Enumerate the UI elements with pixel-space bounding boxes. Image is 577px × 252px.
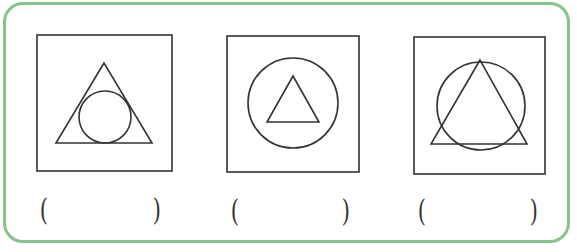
panel-2-answer-close: ) [342,196,350,226]
panel-2-figure [227,36,359,172]
panel-1-figure [37,35,172,171]
panel-3-circle [437,62,525,150]
panel-1-triangle [56,63,152,143]
panel-1-answer-blank[interactable] [92,195,120,225]
panel-1-square [37,35,172,171]
panel-1-answer-close: ) [153,195,161,225]
panel-3-answer-close: ) [530,196,538,226]
panel-1-circle [79,91,131,143]
panel-3-answer-open: ( [418,196,426,226]
panel-2-answer-open: ( [231,196,239,226]
panel-2-circle [248,58,338,148]
panel-2-answer-blank[interactable] [278,196,306,226]
panel-3-figure [414,37,545,174]
panel-1-answer-open: ( [40,195,48,225]
panel-2-triangle [267,76,319,122]
panel-3-answer-blank[interactable] [466,196,494,226]
panel-2-square [227,36,359,172]
